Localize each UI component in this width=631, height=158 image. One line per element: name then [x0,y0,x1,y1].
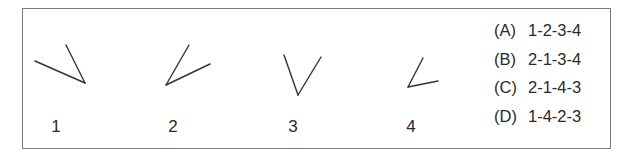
figure-4-label: 4 [401,117,421,137]
option-value: 2-1-3-4 [528,50,581,68]
option-c[interactable]: (C)2-1-4-3 [494,76,581,105]
figure-3-label: 3 [283,117,303,137]
option-key: (D) [494,105,528,127]
option-key: (A) [494,19,528,41]
option-value: 1-2-3-4 [528,21,581,39]
figure-3 [284,55,321,95]
option-key: (C) [494,76,528,98]
option-key: (B) [494,48,528,70]
figure-2-label: 2 [163,117,183,137]
option-value: 1-4-2-3 [528,107,581,125]
option-value: 2-1-4-3 [528,78,581,96]
option-a[interactable]: (A)1-2-3-4 [494,19,581,48]
figure-1 [35,45,85,83]
option-b[interactable]: (B)2-1-3-4 [494,48,581,77]
answer-options: (A)1-2-3-4 (B)2-1-3-4 (C)2-1-4-3 (D)1-4-… [494,19,581,133]
figure-2 [166,45,210,85]
figure-1-label: 1 [46,117,66,137]
figure-4 [408,58,438,87]
option-d[interactable]: (D)1-4-2-3 [494,105,581,134]
